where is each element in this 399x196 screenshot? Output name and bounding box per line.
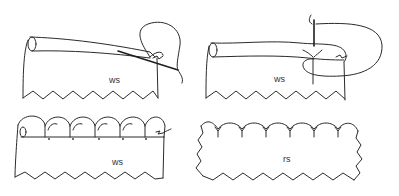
- panel-3-label: ws: [111, 157, 123, 167]
- stitch-dot: [72, 138, 74, 140]
- fabric-cut-edge: [23, 91, 158, 99]
- roll-top-edge: [211, 42, 346, 62]
- panel-1: ws: [23, 22, 183, 99]
- panel-3: ws: [15, 116, 171, 179]
- shell-hem-diagram: ws ws: [0, 0, 399, 196]
- fabric-right-edge: [163, 137, 164, 178]
- scalloped-edge: [201, 122, 358, 131]
- roll-top-edge: [30, 37, 155, 57]
- fabric-left-edge: [196, 126, 203, 176]
- needle-eye-thread: [309, 15, 312, 24]
- shell-3: [70, 117, 95, 137]
- stitch-dot: [98, 138, 100, 140]
- roll-end-icon: [209, 43, 217, 57]
- roll-bottom-edge: [213, 56, 344, 60]
- stitch-ticks: [215, 127, 341, 137]
- fabric-cut-edge: [203, 173, 354, 180]
- shell-4: [95, 117, 120, 137]
- fabric-cut-edge: [206, 91, 345, 99]
- fabric-left-edge: [23, 40, 28, 98]
- roll-bottom-edge: [32, 51, 150, 58]
- stitch-dot: [122, 138, 124, 140]
- fabric-left-edge: [15, 125, 18, 177]
- thread-cross: [303, 50, 322, 57]
- roll-end-icon: [28, 37, 36, 51]
- roll-end-icon: [20, 127, 26, 137]
- shell-2: [45, 117, 70, 137]
- fabric-right-edge: [344, 62, 345, 100]
- panel-2: ws: [206, 15, 382, 100]
- shell-1: [18, 116, 45, 137]
- stitch-mark: [336, 55, 347, 58]
- panel-1-label: ws: [108, 75, 120, 85]
- shell-5: [120, 117, 145, 137]
- fabric-right-edge: [354, 131, 362, 180]
- stitch-mark: [156, 129, 171, 134]
- panel-4-label: rs: [283, 154, 291, 164]
- fabric-left-edge: [206, 46, 209, 98]
- shell-6: [145, 117, 165, 137]
- panel-4: rs: [196, 122, 362, 180]
- stitch-dot: [48, 138, 50, 140]
- panel-2-label: ws: [273, 74, 285, 84]
- stitch-dot: [145, 138, 147, 140]
- fabric-cut-edge: [15, 172, 163, 179]
